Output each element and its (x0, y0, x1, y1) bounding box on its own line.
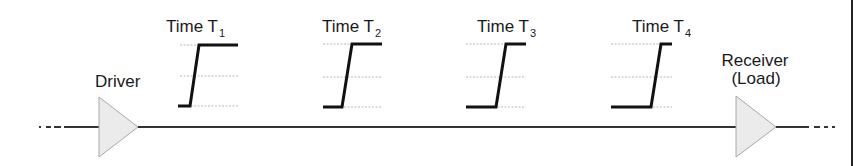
transmission-line-diagram: Driver Receiver (Load) Time T1 Time T2 T… (0, 0, 867, 166)
driver-label: Driver (95, 72, 141, 91)
receiver-label: Receiver (721, 51, 788, 70)
rising-edge-waveform (466, 44, 526, 107)
waveform-t2: Time T2 (322, 17, 382, 107)
waveform-label: Time T3 (477, 17, 536, 39)
waveform-label: Time T4 (632, 17, 691, 39)
waveform-t4: Time T4 (611, 17, 691, 107)
receiver-load-label: (Load) (731, 69, 780, 88)
receiver-buffer-icon (736, 96, 776, 157)
waveform-t1: Time T1 (166, 17, 238, 106)
waveform-label: Time T2 (322, 17, 381, 39)
driver-buffer-icon (99, 97, 138, 157)
rising-edge-waveform (323, 44, 382, 107)
waveform-label: Time T1 (166, 17, 225, 39)
waveform-t3: Time T3 (466, 17, 536, 107)
rising-edge-waveform (611, 44, 672, 107)
